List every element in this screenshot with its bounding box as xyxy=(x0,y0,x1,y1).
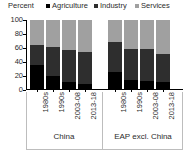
bar-segment-agriculture xyxy=(124,80,138,91)
bar-segment-agriculture xyxy=(30,65,44,90)
bar-segment-industry xyxy=(62,50,76,82)
y-axis-tick-label: 80 xyxy=(15,29,23,38)
bar-segment-services xyxy=(156,20,170,54)
bar-segment-services xyxy=(124,20,138,49)
y-axis-tick-label: 60 xyxy=(15,43,23,52)
legend-swatch-services xyxy=(135,4,139,8)
legend-swatch-agriculture xyxy=(46,4,50,8)
x-axis-tick: 2013-18 xyxy=(156,92,170,126)
bar-stack xyxy=(62,20,76,90)
bar-stack xyxy=(156,20,170,90)
y-axis-tick-label: 100 xyxy=(10,15,23,24)
legend-item-agriculture: Agriculture xyxy=(46,1,88,10)
legend-swatch-industry xyxy=(94,4,98,8)
x-axis-tick: 1980s xyxy=(30,92,44,126)
bar-stack xyxy=(30,20,44,90)
x-axis-tick: 2003-08 xyxy=(140,92,154,126)
x-axis-tick: 1980s xyxy=(108,92,122,126)
bar-segment-agriculture xyxy=(108,72,122,90)
bar-stack xyxy=(140,20,154,90)
bar-segment-services xyxy=(140,20,154,49)
bar-segment-services xyxy=(78,20,92,52)
bar-segment-industry xyxy=(124,49,138,80)
bar-stack xyxy=(46,20,60,90)
y-axis-tick-label: 20 xyxy=(15,71,23,80)
bar-segment-services xyxy=(30,20,44,45)
legend-item-industry: Industry xyxy=(94,1,127,10)
bar-stack xyxy=(78,20,92,90)
y-axis-tick-mark xyxy=(23,90,26,91)
group-frame-right-border xyxy=(182,92,183,150)
bar-segment-agriculture xyxy=(62,82,76,90)
chart-legend: Percent Agriculture Industry Services xyxy=(0,0,185,14)
group-frame-left-border xyxy=(26,92,27,150)
group-label: China xyxy=(26,132,102,141)
legend-label-agriculture: Agriculture xyxy=(52,1,88,10)
bar-segment-services xyxy=(62,20,76,50)
bar-segment-agriculture xyxy=(156,82,170,90)
x-axis-tick-label: 2013-18 xyxy=(167,92,176,120)
bar-segment-industry xyxy=(108,42,122,71)
bar-stack xyxy=(124,20,138,90)
bar-stack xyxy=(108,20,122,90)
legend-label-services: Services xyxy=(141,1,170,10)
x-axis-tick: 2003-08 xyxy=(62,92,76,126)
bar-segment-agriculture xyxy=(140,81,154,90)
y-axis-tick-labels: 020406080100 xyxy=(0,0,23,110)
y-axis-tick-label: 40 xyxy=(15,57,23,66)
x-axis-tick-label: 2013-18 xyxy=(89,92,98,120)
x-axis-tick: 1990s xyxy=(124,92,138,126)
group-separator-line xyxy=(102,92,103,150)
plot-area xyxy=(26,20,183,90)
group-baseline-border xyxy=(26,149,183,150)
bar-segment-industry xyxy=(140,49,154,81)
group-label: EAP excl. China xyxy=(103,132,183,141)
x-axis-tick: 1990s xyxy=(46,92,60,126)
bar-segment-industry xyxy=(78,52,92,84)
legend-item-services: Services xyxy=(135,1,170,10)
bar-segment-industry xyxy=(30,45,44,65)
bar-segment-industry xyxy=(156,54,170,82)
bar-segment-industry xyxy=(46,47,60,76)
legend-label-industry: Industry xyxy=(100,1,127,10)
bar-segment-services xyxy=(46,20,60,47)
x-axis-tick: 2013-18 xyxy=(78,92,92,126)
bar-segment-services xyxy=(108,20,122,42)
bar-segment-agriculture xyxy=(46,76,60,90)
chart-figure: Percent Agriculture Industry Services 02… xyxy=(0,0,185,154)
